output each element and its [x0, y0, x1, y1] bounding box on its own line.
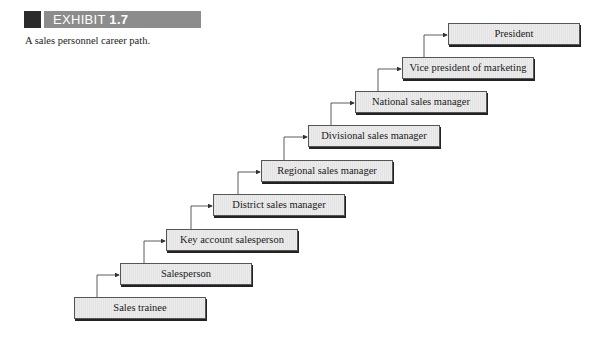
career-step-divisional-sales-manager: Divisional sales manager [308, 125, 440, 147]
career-step-key-account-salesperson: Key account salesperson [166, 229, 298, 251]
career-step-district-sales-manager: District sales manager [213, 194, 345, 216]
career-step-salesperson: Salesperson [120, 263, 252, 285]
career-step-president: President [448, 23, 580, 45]
career-step-sales-trainee: Sales trainee [74, 297, 206, 319]
career-step-vice-president-marketing: Vice president of marketing [402, 57, 534, 79]
career-step-regional-sales-manager: Regional sales manager [261, 160, 393, 182]
career-step-national-sales-manager: National sales manager [355, 91, 487, 113]
